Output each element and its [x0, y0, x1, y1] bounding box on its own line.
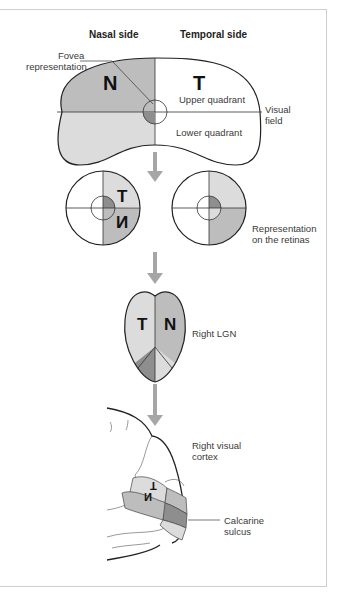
fovea-label-line1: Fovea	[58, 50, 84, 61]
retinas-label-line1: Representation	[252, 223, 316, 234]
retinas-label-line2: on the retinas	[252, 234, 310, 245]
calcarine-label-line1: Calcarine	[224, 515, 264, 526]
visual-field-letter-t: T	[193, 72, 205, 95]
lgn-letter-t: T	[137, 315, 147, 335]
upper-quadrant-label: Upper quadrant	[179, 94, 245, 105]
cortex-label-line2: cortex	[192, 451, 218, 462]
right-lgn-label: Right LGN	[192, 328, 236, 339]
cortex-letter-n-mirrored: N	[144, 491, 152, 503]
cortex-label-line1: Right visual	[192, 440, 241, 451]
temporal-side-header: Temporal side	[180, 29, 247, 40]
visual-field-label-line2: field	[265, 115, 282, 126]
retina-letter-n-mirrored: N	[116, 213, 128, 233]
nasal-side-header: Nasal side	[89, 29, 138, 40]
fovea-label-line2: representation	[26, 61, 87, 72]
calcarine-label-line2: sulcus	[224, 526, 251, 537]
lower-quadrant-label: Lower quadrant	[176, 127, 242, 138]
visual-field-letter-n: N	[103, 72, 117, 95]
diagram-graphics	[0, 0, 338, 600]
lgn-letter-n: N	[164, 315, 176, 335]
visual-field-label-line1: Visual	[265, 104, 291, 115]
retina-letter-t: T	[117, 187, 127, 207]
